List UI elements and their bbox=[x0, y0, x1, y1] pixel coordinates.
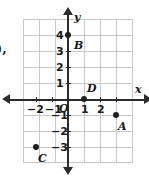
data-point-label-D: D bbox=[87, 83, 97, 94]
y-axis-arrow-up-icon bbox=[63, 7, 73, 15]
y-tick bbox=[66, 51, 71, 52]
y-axis-label: y bbox=[74, 11, 80, 24]
data-point-B bbox=[65, 32, 71, 38]
x-axis-label: x bbox=[135, 83, 142, 96]
y-tick-label-minus3: −3 bbox=[51, 142, 68, 153]
y-axis-arrow-down-icon bbox=[63, 167, 73, 175]
gridline-vertical bbox=[116, 19, 117, 163]
gridline-horizontal bbox=[23, 35, 133, 36]
gridline-horizontal bbox=[23, 67, 133, 68]
plot-area: −2 −1 1 2 4 3 2 1 −1 −2 −3 O x y B D A C bbox=[23, 19, 133, 163]
x-tick bbox=[52, 97, 53, 102]
x-tick-label-1: 1 bbox=[81, 104, 89, 115]
y-tick bbox=[66, 83, 71, 84]
x-tick bbox=[36, 97, 37, 102]
data-point-label-A: A bbox=[118, 121, 127, 132]
gridline-horizontal bbox=[23, 83, 133, 84]
gridline-horizontal bbox=[23, 147, 133, 148]
x-tick-label-minus2: −2 bbox=[27, 104, 44, 115]
data-point-D bbox=[81, 96, 87, 102]
gridline-vertical bbox=[39, 19, 40, 163]
data-point-label-B: B bbox=[74, 40, 83, 51]
y-tick-label-1: 1 bbox=[56, 78, 64, 89]
gridline-vertical bbox=[23, 19, 24, 163]
coordinate-plane-figure: ), bbox=[0, 0, 149, 183]
y-tick-label-3: 3 bbox=[56, 46, 64, 57]
x-tick bbox=[116, 97, 117, 102]
data-point-C bbox=[33, 144, 39, 150]
gridline-vertical bbox=[84, 19, 85, 163]
gridline-horizontal bbox=[23, 131, 133, 132]
x-tick-label-2: 2 bbox=[97, 104, 105, 115]
origin-label: O bbox=[59, 102, 69, 115]
y-tick bbox=[66, 67, 71, 68]
y-tick-label-minus2: −2 bbox=[51, 126, 68, 137]
clipped-margin-text: ), bbox=[0, 40, 12, 58]
y-tick-label-2: 2 bbox=[56, 62, 64, 73]
x-axis-arrow-right-icon bbox=[144, 94, 149, 104]
gridline-vertical bbox=[100, 19, 101, 163]
gridline-vertical bbox=[132, 19, 133, 163]
x-tick bbox=[100, 97, 101, 102]
data-point-label-C: C bbox=[38, 153, 47, 164]
x-axis-line bbox=[10, 99, 146, 101]
x-axis-arrow-left-icon bbox=[2, 94, 10, 104]
y-tick-label-4: 4 bbox=[56, 30, 64, 41]
data-point-A bbox=[113, 112, 119, 118]
